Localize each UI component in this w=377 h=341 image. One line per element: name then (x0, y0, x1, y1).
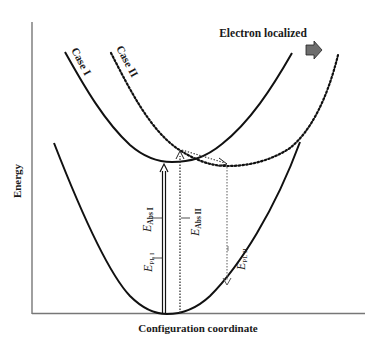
pl-1-label: EPL I (141, 252, 156, 273)
abs-2-arrow (176, 151, 184, 313)
case-1-label: Case I (69, 45, 94, 77)
abs-1-label: EAbs I (140, 207, 155, 233)
y-axis-label: Energy (11, 163, 23, 198)
relaxation-arrow (182, 150, 227, 166)
case-2-curve (111, 53, 338, 166)
case-1-curve (65, 52, 292, 162)
x-axis-label: Configuration coordinate (138, 322, 258, 334)
configuration-coordinate-diagram: Configuration coordinate Energy Case I C… (0, 0, 377, 341)
right-arrow-icon (306, 41, 322, 59)
case-2-label: Case II (114, 43, 141, 79)
ground-state-curve (54, 142, 300, 314)
abs-1-arrow (160, 164, 168, 313)
abs-2-label: EAbs II (188, 208, 203, 237)
pl-2-arrow (223, 167, 231, 285)
pl-2-label: EPL II (234, 248, 249, 271)
electron-localized-label: Electron localized (219, 27, 307, 39)
